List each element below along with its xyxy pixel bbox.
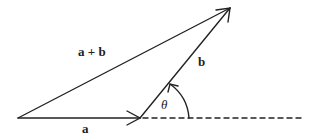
angle-arc-arrowhead bbox=[168, 84, 178, 92]
label-theta: θ bbox=[161, 97, 168, 112]
label-sum: a + b bbox=[78, 44, 106, 59]
label-b: b bbox=[198, 54, 205, 69]
label-a: a bbox=[82, 121, 89, 136]
angle-arc bbox=[170, 84, 189, 118]
vector-diagram: a + b b θ a bbox=[0, 0, 314, 138]
